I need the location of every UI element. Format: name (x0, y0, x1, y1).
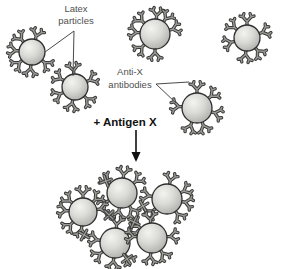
anti-x-antibodies-label-line2: antibodies (108, 79, 152, 90)
plus-antigen-x-label: + Antigen X (93, 116, 156, 128)
latex-sphere (140, 19, 170, 49)
anti-x-antibodies-label-line1: Anti-X (117, 66, 144, 77)
clumped-latex-particle (57, 187, 109, 238)
latex-sphere (62, 74, 88, 100)
latex-sphere (19, 39, 45, 65)
latex-particles-label-line1: Latex (64, 3, 87, 14)
latex-sphere (182, 93, 212, 123)
leader-line (156, 84, 176, 103)
latex-sphere (234, 25, 260, 51)
latex-agglutination-diagram: Latex particles Anti-X antibodies + Anti… (0, 0, 281, 269)
latex-agglutination-figure: Latex particles Anti-X antibodies + Anti… (0, 0, 281, 269)
latex-particle (7, 27, 55, 77)
latex-particle (50, 62, 100, 112)
down-arrow-icon (132, 130, 141, 162)
leader-line (156, 82, 189, 84)
latex-sphere (137, 223, 167, 253)
latex-particle (222, 14, 273, 63)
latex-particles-label-line2: particles (58, 15, 94, 26)
latex-particle (128, 7, 182, 60)
latex-particle (170, 82, 224, 135)
particles-and-antigens (7, 7, 272, 269)
latex-sphere (152, 184, 182, 214)
latex-sphere (69, 198, 97, 226)
leader-line (45, 31, 74, 52)
latex-sphere (107, 178, 137, 208)
